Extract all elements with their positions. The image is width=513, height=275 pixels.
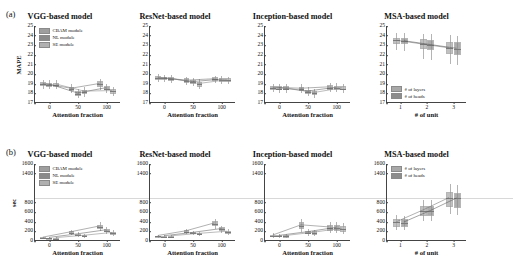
- y-tick-label: 0: [30, 238, 33, 244]
- box-median: [340, 89, 346, 90]
- legend-swatch: [39, 173, 50, 179]
- y-tick-label: 1400: [137, 171, 148, 177]
- legend-label: # of heads: [405, 173, 425, 178]
- box-median: [299, 89, 305, 90]
- y-tick-label: 19: [27, 81, 33, 87]
- box-median: [184, 81, 190, 82]
- box-median: [427, 45, 434, 46]
- plot-area: 020040060080014001600050100Attention fra…: [34, 164, 120, 241]
- y-tick-label: 18: [379, 91, 385, 97]
- y-tick-label: 21: [257, 62, 263, 68]
- x-tick-label: 50: [190, 105, 196, 111]
- y-tick-label: 800: [140, 200, 148, 206]
- box-median: [219, 229, 225, 230]
- box-median: [69, 89, 75, 90]
- box-median: [427, 211, 434, 212]
- box-median: [168, 237, 174, 238]
- box-median: [40, 84, 46, 85]
- plot-area: 020040060080014001600050100Attention fra…: [149, 164, 235, 241]
- subplot-a-inception: Inception-based model1718192021222324250…: [230, 0, 355, 137]
- legend: CBAM moduleNL moduleSE module: [39, 166, 83, 186]
- y-tick-label: 1400: [252, 171, 263, 177]
- y-tick-label: 22: [27, 52, 33, 58]
- y-tick-label: 22: [142, 52, 148, 58]
- box-median: [184, 232, 190, 233]
- box-median: [393, 40, 400, 41]
- y-tick-label: 1600: [137, 161, 148, 167]
- box-median: [46, 238, 52, 239]
- y-tick-label: 18: [257, 91, 263, 97]
- y-tick-label: 19: [257, 81, 263, 87]
- y-tick-label: 24: [142, 33, 148, 39]
- y-tick-label: 25: [27, 23, 33, 29]
- x-tick-label: 100: [102, 243, 110, 249]
- subplot-title: Inception-based model: [230, 150, 355, 159]
- legend-label: SE module: [53, 42, 75, 47]
- box-median: [420, 44, 427, 45]
- legend-label: SE module: [53, 180, 75, 185]
- y-tick-label: 22: [257, 52, 263, 58]
- y-tick-label: 600: [255, 209, 263, 215]
- box-median: [104, 89, 110, 90]
- y-tick-label: 20: [142, 71, 148, 77]
- subplot-b-vgg: VGG-based model0200400600800140016000501…: [0, 138, 120, 275]
- box-median: [393, 222, 400, 223]
- legend-item: NL module: [39, 173, 83, 179]
- legend: CBAM moduleNL moduleSE module: [39, 28, 83, 48]
- y-tick-label: 200: [25, 229, 33, 235]
- box-median: [276, 89, 282, 90]
- legend-swatch: [391, 166, 402, 172]
- y-tick-label: 0: [145, 238, 148, 244]
- legend-label: # of layers: [405, 166, 426, 171]
- legend-item: CBAM module: [39, 166, 83, 172]
- y-tick-label: 25: [379, 23, 385, 29]
- box-median: [334, 88, 340, 89]
- subplot-b-inception: Inception-based model0200400600800140016…: [230, 138, 355, 275]
- subplot-title: ResNet-based model: [115, 150, 235, 159]
- box-median: [283, 89, 289, 90]
- x-axis-label: Attention fraction: [52, 249, 103, 256]
- y-tick-label: 1400: [374, 171, 385, 177]
- legend-label: NL module: [53, 173, 75, 178]
- box-median: [161, 237, 167, 238]
- box-median: [69, 233, 75, 234]
- box-median: [420, 211, 427, 212]
- box-median: [340, 229, 346, 230]
- box-median: [305, 92, 311, 93]
- x-axis-label: # of unit: [415, 111, 438, 118]
- y-tick-label: 400: [377, 219, 385, 225]
- y-tick-label: 1400: [22, 171, 33, 177]
- legend-swatch: [391, 86, 402, 92]
- box-median: [270, 88, 276, 89]
- y-tick-label: 23: [379, 42, 385, 48]
- legend-label: # of heads: [405, 94, 425, 99]
- y-tick-label: 17: [379, 100, 385, 106]
- box-median: [327, 228, 333, 229]
- x-tick-label: 50: [75, 105, 81, 111]
- x-tick-label: 100: [332, 105, 340, 111]
- box-median: [327, 88, 333, 89]
- box-median: [197, 84, 203, 85]
- x-tick-label: 0: [48, 105, 51, 111]
- panel-b-row: VGG-based model0200400600800140016000501…: [0, 138, 481, 275]
- x-tick-label: 0: [278, 105, 281, 111]
- box-median: [53, 85, 59, 86]
- box-median: [161, 78, 167, 79]
- y-tick-label: 1600: [252, 161, 263, 167]
- x-tick-label: 50: [305, 243, 311, 249]
- y-tick-label: 600: [140, 209, 148, 215]
- box-median: [75, 235, 81, 236]
- plot-area: 020040060080014001600123# of unit# of la…: [386, 164, 466, 241]
- x-tick-label: 1: [399, 243, 402, 249]
- y-tick-label: 21: [27, 62, 33, 68]
- box-median: [53, 239, 59, 240]
- box-median: [168, 79, 174, 80]
- x-axis-label: Attention fraction: [167, 249, 218, 256]
- box-median: [334, 228, 340, 229]
- y-tick-label: 24: [27, 33, 33, 39]
- subplot-title: ResNet-based model: [115, 12, 235, 21]
- y-tick-label: 20: [27, 71, 33, 77]
- y-tick-label: 17: [142, 100, 148, 106]
- subplot-title: MSA-based model: [352, 150, 481, 159]
- box-median: [299, 226, 305, 227]
